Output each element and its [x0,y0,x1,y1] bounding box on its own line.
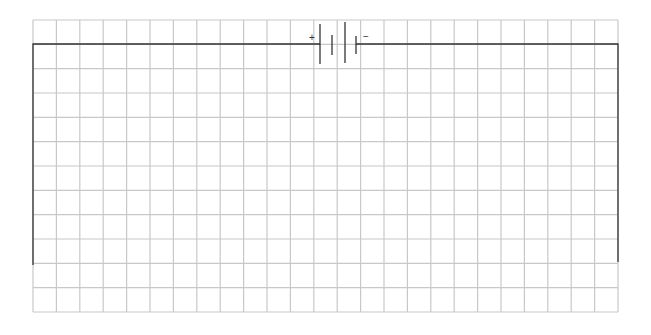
circuit-wire [33,44,618,265]
positive-terminal-label: + [309,32,315,43]
circuit-canvas: + − [0,0,651,335]
circuit-diagram: + − [0,0,651,335]
battery-icon [320,22,356,64]
negative-terminal-label: − [363,31,369,42]
grid-paper [33,20,618,312]
